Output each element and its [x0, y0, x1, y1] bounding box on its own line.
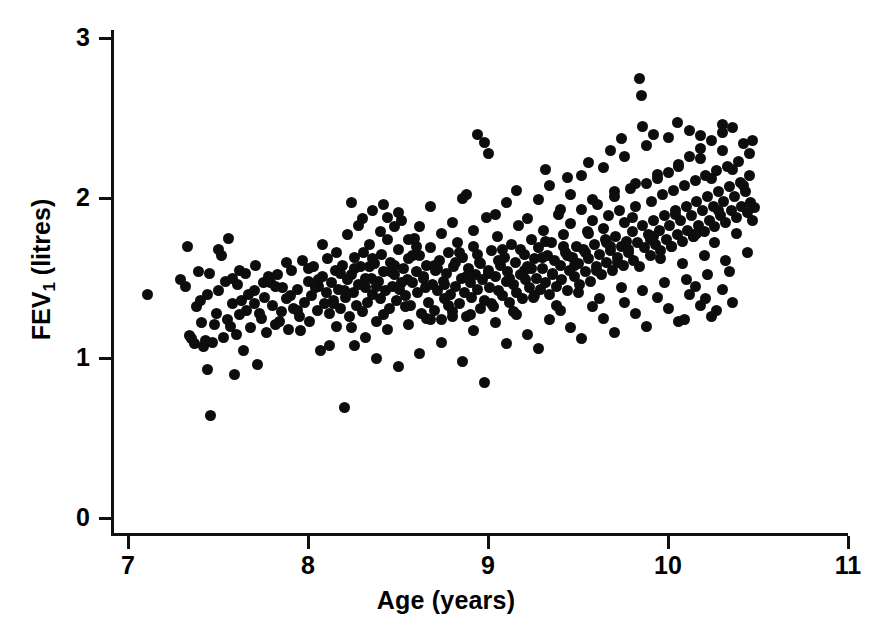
data-point: [261, 327, 272, 338]
data-point: [238, 345, 249, 356]
data-point: [709, 237, 720, 248]
data-point: [673, 161, 684, 172]
data-point: [292, 305, 303, 316]
data-point: [331, 321, 342, 332]
data-point: [349, 340, 360, 351]
data-point: [180, 281, 191, 292]
data-point: [630, 178, 641, 189]
data-point: [700, 293, 711, 304]
data-point: [335, 268, 346, 279]
data-point: [344, 311, 355, 322]
data-point: [389, 221, 400, 232]
data-point: [587, 215, 598, 226]
data-point: [511, 309, 522, 320]
data-point: [677, 236, 688, 247]
data-point: [706, 173, 717, 184]
x-tick-label-9: 9: [458, 553, 518, 578]
data-point: [501, 338, 512, 349]
data-point: [324, 308, 335, 319]
data-point: [324, 340, 335, 351]
data-point: [425, 314, 436, 325]
x-tick-label-10: 10: [638, 553, 698, 578]
data-point: [612, 257, 623, 268]
data-point: [641, 321, 652, 332]
data-point: [472, 249, 483, 260]
data-point: [461, 271, 472, 282]
data-point: [184, 330, 195, 341]
data-point: [211, 308, 222, 319]
data-point: [540, 236, 551, 247]
data-point: [702, 269, 713, 280]
data-point: [182, 241, 193, 252]
data-point: [637, 121, 648, 132]
data-point: [331, 247, 342, 258]
data-point: [655, 253, 666, 264]
data-point: [504, 273, 515, 284]
data-point: [364, 261, 375, 272]
data-point: [436, 337, 447, 348]
data-point: [501, 197, 512, 208]
data-point: [727, 122, 738, 133]
data-point: [472, 284, 483, 295]
data-point: [605, 145, 616, 156]
data-point: [717, 145, 728, 156]
data-point: [317, 239, 328, 250]
data-point: [425, 201, 436, 212]
data-point: [346, 197, 357, 208]
data-point: [749, 202, 760, 213]
data-point: [202, 364, 213, 375]
data-point: [414, 348, 425, 359]
data-point: [690, 175, 701, 186]
data-point: [580, 247, 591, 258]
data-point: [652, 292, 663, 303]
data-point: [565, 218, 576, 229]
data-point: [375, 226, 386, 237]
data-point: [727, 297, 738, 308]
data-point: [699, 250, 710, 261]
data-point: [303, 263, 314, 274]
data-point: [349, 263, 360, 274]
data-point: [711, 305, 722, 316]
data-point: [684, 151, 695, 162]
data-point: [614, 205, 625, 216]
data-point: [227, 273, 238, 284]
data-point: [515, 244, 526, 255]
data-point: [695, 153, 706, 164]
data-point: [562, 285, 573, 296]
data-point: [544, 314, 555, 325]
data-point: [436, 228, 447, 239]
data-point: [371, 353, 382, 364]
data-point: [609, 186, 620, 197]
data-point: [537, 252, 548, 263]
data-point: [720, 217, 731, 228]
data-point: [258, 277, 269, 288]
data-point: [209, 319, 220, 330]
data-point: [468, 225, 479, 236]
data-point: [382, 324, 393, 335]
x-tick-7: [127, 536, 130, 549]
x-tick-9: [487, 536, 490, 549]
data-point: [576, 170, 587, 181]
data-point: [558, 229, 569, 240]
data-point: [250, 260, 261, 271]
data-point: [717, 284, 728, 295]
data-point: [364, 239, 375, 250]
data-point: [645, 250, 656, 261]
data-point: [497, 244, 508, 255]
data-point: [231, 329, 242, 340]
data-point: [603, 210, 614, 221]
data-point: [616, 133, 627, 144]
y-tick-3: [99, 37, 112, 40]
data-point: [747, 215, 758, 226]
data-point: [468, 325, 479, 336]
data-point: [627, 212, 638, 223]
data-point: [637, 285, 648, 296]
data-point: [598, 223, 609, 234]
data-point: [555, 204, 566, 215]
data-point: [429, 260, 440, 271]
data-point: [393, 244, 404, 255]
data-point: [636, 90, 647, 101]
data-point: [193, 266, 204, 277]
data-point: [367, 205, 378, 216]
data-point: [623, 244, 634, 255]
